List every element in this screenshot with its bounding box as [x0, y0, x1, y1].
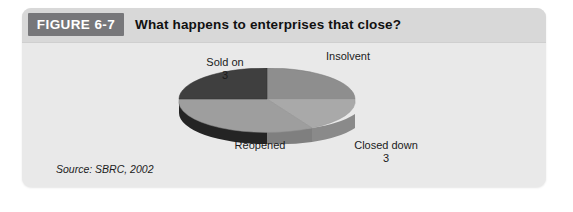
figure-header: FIGURE 6-7 What happens to enterprises t…	[22, 8, 546, 43]
figure-panel: FIGURE 6-7 What happens to enterprises t…	[22, 8, 546, 187]
pie-label-sold-on: Sold on 3	[190, 56, 260, 82]
source-note: Source: SBRC, 2002	[56, 163, 153, 175]
pie-label-reopened: Reopened	[218, 139, 302, 152]
pie-label-insolvent: Insolvent	[310, 50, 386, 63]
pie-label-reopened-text: Reopened	[235, 139, 286, 151]
figure-number-badge: FIGURE 6-7	[28, 13, 124, 36]
chart-body: Sold on 3 Insolvent Reopened Closed down…	[22, 42, 546, 187]
pie-slice-insolvent[interactable]	[267, 68, 355, 99]
pie-label-closed-down: Closed down 3	[338, 139, 434, 165]
pie-label-closed-down-value: 3	[338, 152, 434, 165]
figure-title: What happens to enterprises that close?	[135, 13, 401, 36]
pie-label-closed-down-text: Closed down	[354, 139, 418, 151]
pie-label-sold-on-text: Sold on	[206, 56, 243, 68]
pie-label-insolvent-text: Insolvent	[326, 50, 370, 62]
pie-label-sold-on-value: 3	[190, 69, 260, 82]
pie-chart: Sold on 3 Insolvent Reopened Closed down…	[22, 42, 546, 162]
